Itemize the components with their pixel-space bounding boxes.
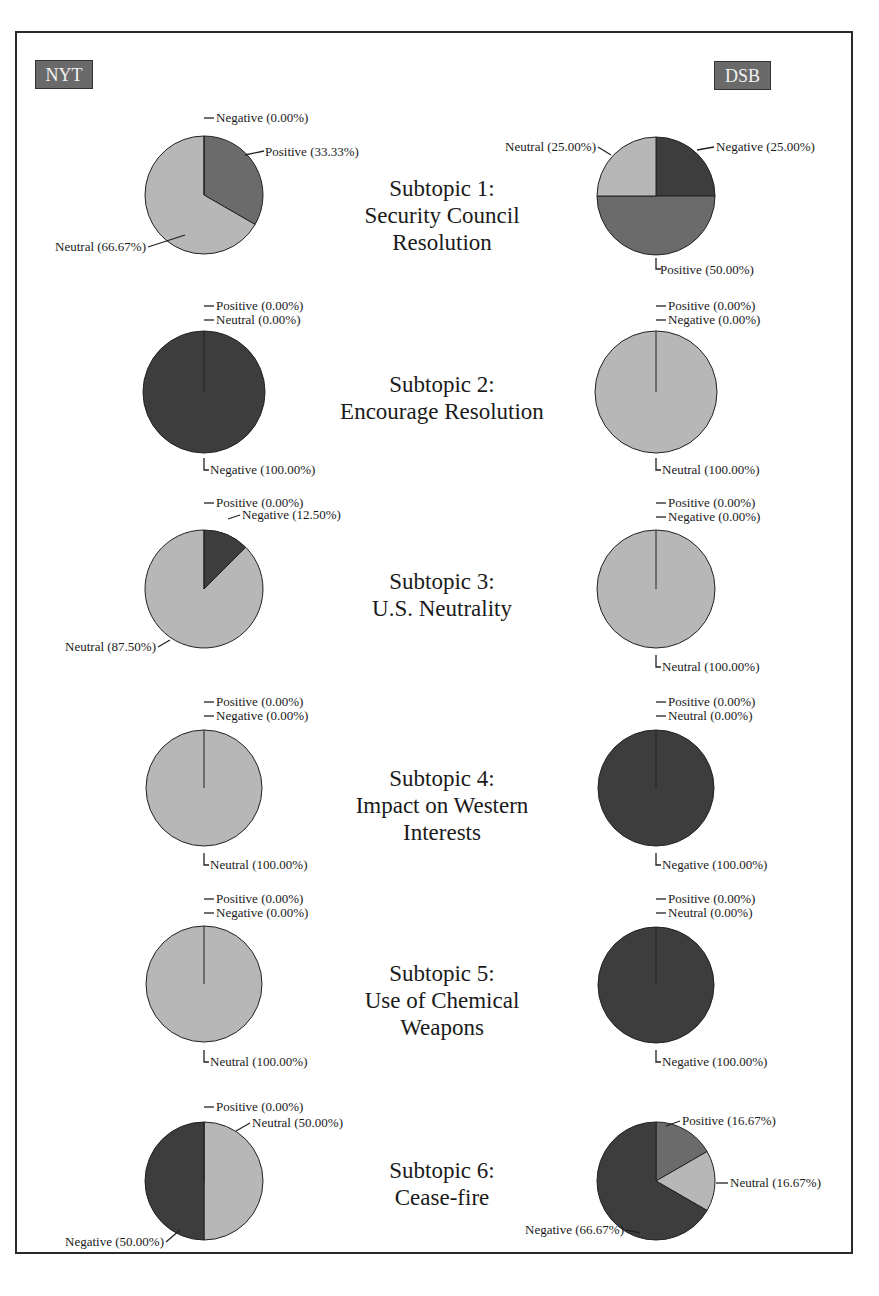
slice-label-positive: Positive (0.00%) [216, 694, 303, 709]
pie-charts-canvas: Negative (0.00%)Positive (33.33%)Neutral… [0, 0, 879, 1296]
slice-label-negative: Negative (100.00%) [210, 462, 315, 477]
slice-label-neutral: Neutral (0.00%) [668, 708, 752, 723]
slice-label-neutral: Neutral (100.00%) [210, 857, 307, 872]
slice-label-negative: Negative (50.00%) [65, 1234, 164, 1249]
slice-label-positive: Positive (0.00%) [668, 694, 755, 709]
slice-label-neutral: Neutral (50.00%) [252, 1115, 343, 1130]
slice-label-negative: Negative (0.00%) [216, 708, 308, 723]
slice-positive [597, 196, 715, 255]
slice-label-negative: Negative (0.00%) [216, 905, 308, 920]
slice-label-positive: Positive (0.00%) [216, 298, 303, 313]
pie-subtopic-4-nyt: Positive (0.00%)Negative (0.00%)Neutral … [146, 694, 308, 872]
slice-label-neutral: Neutral (25.00%) [505, 139, 596, 154]
slice-label-positive: Positive (16.67%) [682, 1113, 776, 1128]
slice-label-positive: Positive (0.00%) [668, 495, 755, 510]
slice-negative [145, 1122, 204, 1240]
slice-label-neutral: Neutral (16.67%) [730, 1175, 821, 1190]
pie-subtopic-5-dsb: Positive (0.00%)Neutral (0.00%)Negative … [598, 891, 767, 1069]
pie-subtopic-6-dsb: Positive (16.67%)Neutral (16.67%)Negativ… [525, 1113, 821, 1240]
slice-label-negative: Negative (100.00%) [662, 857, 767, 872]
slice-label-positive: Positive (0.00%) [216, 891, 303, 906]
slice-label-neutral: Neutral (100.00%) [662, 659, 759, 674]
slice-label-neutral: Neutral (0.00%) [668, 905, 752, 920]
slice-label-positive: Positive (0.00%) [668, 298, 755, 313]
pie-subtopic-3-dsb: Positive (0.00%)Negative (0.00%)Neutral … [597, 495, 760, 674]
slice-label-neutral: Neutral (100.00%) [210, 1054, 307, 1069]
pie-subtopic-3-nyt: Positive (0.00%)Negative (12.50%)Neutral… [65, 495, 341, 654]
pie-subtopic-5-nyt: Positive (0.00%)Negative (0.00%)Neutral … [146, 891, 308, 1069]
pie-subtopic-2-nyt: Positive (0.00%)Neutral (0.00%)Negative … [143, 298, 315, 477]
slice-label-negative: Negative (0.00%) [216, 110, 308, 125]
pie-subtopic-4-dsb: Positive (0.00%)Neutral (0.00%)Negative … [598, 694, 767, 872]
slice-label-negative: Negative (12.50%) [242, 507, 341, 522]
slice-label-negative: Negative (100.00%) [662, 1054, 767, 1069]
pie-subtopic-1-dsb: Negative (25.00%)Positive (50.00%)Neutra… [505, 137, 815, 277]
slice-label-positive: Positive (0.00%) [668, 891, 755, 906]
slice-neutral [597, 137, 656, 196]
slice-negative [656, 137, 715, 196]
slice-label-negative: Negative (66.67%) [525, 1222, 624, 1237]
pie-subtopic-6-nyt: Positive (0.00%)Neutral (50.00%)Negative… [65, 1099, 343, 1249]
pie-subtopic-2-dsb: Positive (0.00%)Negative (0.00%)Neutral … [595, 298, 760, 477]
pie-subtopic-1-nyt: Negative (0.00%)Positive (33.33%)Neutral… [55, 110, 359, 254]
slice-label-positive: Positive (50.00%) [660, 262, 754, 277]
slice-label-positive: Positive (33.33%) [265, 144, 359, 159]
slice-label-negative: Negative (0.00%) [668, 312, 760, 327]
slice-label-positive: Positive (0.00%) [216, 1099, 303, 1114]
slice-label-neutral: Neutral (100.00%) [662, 462, 759, 477]
slice-label-negative: Negative (0.00%) [668, 509, 760, 524]
slice-label-negative: Negative (25.00%) [716, 139, 815, 154]
slice-label-neutral: Neutral (0.00%) [216, 312, 300, 327]
slice-neutral [204, 1122, 263, 1240]
slice-label-neutral: Neutral (87.50%) [65, 639, 156, 654]
slice-label-neutral: Neutral (66.67%) [55, 239, 146, 254]
